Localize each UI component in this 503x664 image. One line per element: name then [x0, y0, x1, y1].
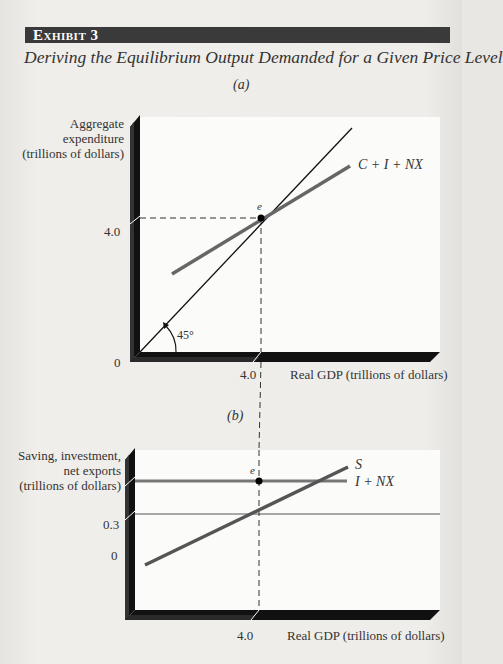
- panel-a-point-label: e: [257, 200, 262, 212]
- angle-label: 45°: [177, 328, 194, 343]
- panel-a-label: (a): [233, 77, 249, 93]
- panel-a-origin-label: 0: [114, 355, 121, 371]
- equilibrium-point-b: [256, 478, 263, 485]
- panel-b-y-axis-title: Saving, investment, net exports (trillio…: [18, 448, 121, 493]
- panel-a-x-axis-title: Real GDP (trillions of dollars): [290, 367, 448, 383]
- panel-a-x-tick-4: 4.0: [240, 367, 256, 383]
- panel-b-x-tick-4: 4.0: [237, 628, 253, 644]
- panel-b-y-tick-0: 0: [111, 548, 118, 564]
- panel-a-frame: [130, 115, 440, 362]
- panel-b-y-tick-03: 0.3: [103, 517, 119, 533]
- panel-b-point-label: e: [250, 464, 255, 476]
- panel-a-y-axis-title: Aggregate expenditure (trillions of doll…: [22, 116, 124, 161]
- connector-dashed-line: [259, 362, 261, 450]
- saving-curve-label: S: [355, 457, 362, 473]
- equilibrium-point-a: [258, 215, 265, 222]
- panel-b-x-axis-title: Real GDP (trillions of dollars): [287, 628, 445, 644]
- inx-line-label: I + NX: [355, 474, 394, 490]
- ae-curve-label: C + I + NX: [358, 157, 423, 173]
- panel-a-y-tick-4: 4.0: [104, 224, 120, 240]
- panel-b-label: (b): [227, 408, 243, 424]
